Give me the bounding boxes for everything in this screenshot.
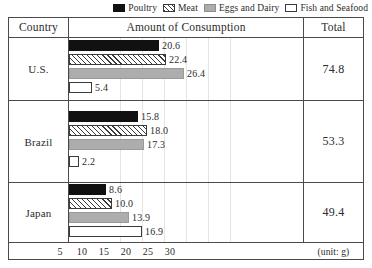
bar-japan-eggs: 13.9 bbox=[69, 212, 150, 223]
gridline-20 bbox=[186, 183, 187, 242]
bar-fill-meat bbox=[69, 125, 147, 136]
bar-group-us: 20.6 22.4 26.4 5.4 bbox=[69, 38, 303, 100]
gridline-25 bbox=[208, 38, 209, 100]
legend-item-meat: Meat bbox=[163, 3, 198, 13]
gridline-30 bbox=[230, 101, 231, 182]
x-tick-15: 15 bbox=[93, 243, 115, 261]
row-label-us: U.S. bbox=[9, 38, 68, 100]
consumption-table: Country Amount of Consumption Total U.S.… bbox=[8, 17, 364, 260]
bar-brazil-fish: 2.2 bbox=[69, 156, 95, 167]
bar-brazil-meat: 18.0 bbox=[69, 125, 168, 136]
legend-item-poultry: Poultry bbox=[113, 3, 157, 13]
x-tick-5: 5 bbox=[49, 243, 71, 261]
row-total-japan: 49.4 bbox=[304, 183, 363, 242]
bar-value-brazil-eggs: 17.3 bbox=[147, 139, 165, 150]
bar-fill-eggs bbox=[69, 139, 144, 150]
gridline-15 bbox=[164, 183, 165, 242]
row-total-us: 74.8 bbox=[304, 38, 363, 100]
bar-value-brazil-meat: 18.0 bbox=[150, 125, 168, 136]
column-header-country: Country bbox=[9, 18, 68, 37]
bar-value-us-poultry: 20.6 bbox=[162, 40, 180, 51]
gridline-30 bbox=[230, 38, 231, 100]
bar-brazil-eggs: 17.3 bbox=[69, 139, 165, 150]
bar-value-brazil-fish: 2.2 bbox=[82, 156, 95, 167]
bar-fill-meat bbox=[69, 54, 166, 65]
axis-unit-label: (unit: g) bbox=[304, 243, 363, 261]
bar-fill-fish bbox=[69, 156, 79, 167]
x-tick-10: 10 bbox=[71, 243, 93, 261]
bar-brazil-poultry: 15.8 bbox=[69, 111, 159, 122]
bar-us-poultry: 20.6 bbox=[69, 40, 180, 51]
bar-value-japan-fish: 16.9 bbox=[145, 226, 163, 237]
gridline-25 bbox=[208, 101, 209, 182]
bar-fill-fish bbox=[69, 226, 142, 237]
bar-fill-eggs bbox=[69, 212, 129, 223]
legend-label-fish-and-seafood: Fish and Seafood bbox=[300, 3, 368, 13]
bar-fill-poultry bbox=[69, 111, 138, 122]
bar-value-us-eggs: 26.4 bbox=[187, 68, 205, 79]
column-header-total: Total bbox=[304, 18, 363, 37]
legend-item-eggs-and-dairy: Eggs and Dairy bbox=[204, 3, 280, 13]
bar-value-us-meat: 22.4 bbox=[169, 54, 187, 65]
gridline-25 bbox=[208, 183, 209, 242]
bar-fill-meat bbox=[69, 198, 112, 209]
bar-value-us-fish: 5.4 bbox=[95, 82, 108, 93]
bar-group-japan: 8.6 10.0 13.9 16.9 bbox=[69, 183, 303, 242]
bar-fill-eggs bbox=[69, 68, 184, 79]
bar-us-eggs: 26.4 bbox=[69, 68, 205, 79]
bar-japan-poultry: 8.6 bbox=[69, 184, 122, 195]
x-tick-20: 20 bbox=[115, 243, 137, 261]
chart-legend: Poultry Meat Eggs and Dairy Fish and Sea… bbox=[0, 0, 372, 16]
row-total-brazil: 53.3 bbox=[304, 101, 363, 182]
bar-japan-meat: 10.0 bbox=[69, 198, 133, 209]
gray-square-icon bbox=[204, 4, 216, 12]
bar-japan-fish: 16.9 bbox=[69, 226, 163, 237]
bar-us-fish: 5.4 bbox=[69, 82, 108, 93]
x-tick-25: 25 bbox=[137, 243, 159, 261]
white-square-icon bbox=[285, 4, 297, 12]
legend-label-meat: Meat bbox=[178, 3, 198, 13]
hatched-square-icon bbox=[163, 4, 175, 12]
bar-fill-fish bbox=[69, 82, 92, 93]
bar-us-meat: 22.4 bbox=[69, 54, 187, 65]
legend-label-poultry: Poultry bbox=[128, 3, 157, 13]
bar-value-japan-eggs: 13.9 bbox=[132, 212, 150, 223]
bar-value-japan-poultry: 8.6 bbox=[109, 184, 122, 195]
x-tick-30: 30 bbox=[159, 243, 181, 261]
x-axis: 5 10 15 20 25 30 (unit: g) bbox=[9, 243, 363, 261]
row-label-brazil: Brazil bbox=[9, 101, 68, 182]
legend-item-fish-and-seafood: Fish and Seafood bbox=[285, 3, 368, 13]
gridline-30 bbox=[230, 183, 231, 242]
bar-value-japan-meat: 10.0 bbox=[115, 198, 133, 209]
row-label-japan: Japan bbox=[9, 183, 68, 242]
black-square-icon bbox=[113, 4, 125, 12]
column-header-amount: Amount of Consumption bbox=[69, 18, 303, 37]
gridline-20 bbox=[186, 101, 187, 182]
bar-fill-poultry bbox=[69, 40, 159, 51]
bar-fill-poultry bbox=[69, 184, 106, 195]
bar-value-brazil-poultry: 15.8 bbox=[141, 111, 159, 122]
legend-label-eggs-and-dairy: Eggs and Dairy bbox=[219, 3, 280, 13]
bar-group-brazil: 15.8 18.0 17.3 2.2 bbox=[69, 101, 303, 182]
